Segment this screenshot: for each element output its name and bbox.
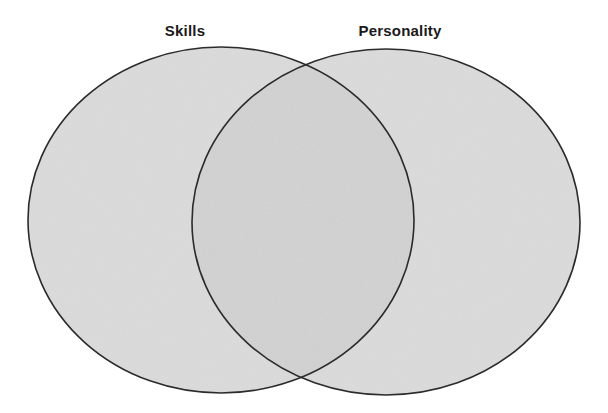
personality-set-label: Personality — [358, 22, 441, 39]
skills-set-label: Skills — [165, 22, 205, 39]
set-circles — [28, 47, 580, 395]
personality-circle — [192, 49, 580, 395]
venn-diagram — [0, 0, 608, 413]
